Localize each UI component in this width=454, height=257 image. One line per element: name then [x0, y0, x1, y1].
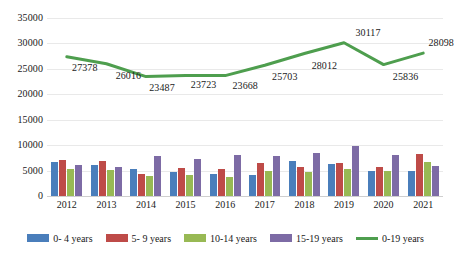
legend-item[interactable]: 15-19 years: [270, 233, 343, 244]
legend-item-label: 0-19 years: [382, 233, 424, 244]
legend-bar-swatch-icon: [270, 234, 292, 242]
legend-item-label: 5- 9 years: [132, 233, 171, 244]
x-axis-tick-label: 2018: [294, 199, 314, 211]
legend-line-swatch-icon: [356, 237, 378, 240]
legend-item[interactable]: 10-14 years: [184, 233, 257, 244]
x-axis-tick-label: 2013: [96, 199, 116, 211]
legend-item[interactable]: 5- 9 years: [106, 233, 171, 244]
y-axis-tick-label: 10000: [18, 140, 44, 150]
x-axis-tick-label: 2021: [413, 199, 433, 211]
legend-item-label: 15-19 years: [296, 233, 343, 244]
line-data-label: 30117: [355, 28, 380, 38]
y-axis-tick-label: 5000: [23, 166, 43, 176]
legend-item-label: 0- 4 years: [53, 233, 92, 244]
line-data-label: 25703: [272, 72, 298, 82]
y-axis-tick-label: 25000: [18, 64, 44, 74]
line-data-label: 28012: [312, 61, 338, 71]
x-axis: 2012201320142015201620172018201920202021: [47, 199, 443, 215]
x-axis-tick-label: 2016: [215, 199, 235, 211]
x-axis-tick-label: 2017: [255, 199, 275, 211]
x-axis-tick-label: 2020: [374, 199, 394, 211]
x-axis-tick-label: 2014: [136, 199, 156, 211]
x-axis-tick-label: 2015: [176, 199, 196, 211]
y-axis-tick-label: 35000: [18, 13, 44, 23]
line-data-label: 23723: [191, 80, 217, 90]
x-axis-tick-label: 2012: [57, 199, 77, 211]
legend-item[interactable]: 0- 4 years: [27, 233, 92, 244]
legend-bar-swatch-icon: [106, 234, 128, 242]
line-data-label: 23487: [149, 83, 175, 93]
axis-baseline: [47, 196, 443, 197]
line-data-label: 27378: [72, 63, 98, 73]
line-data-label: 23668: [232, 81, 258, 91]
y-axis-tick-label: 20000: [18, 89, 44, 99]
y-axis: 05000100001500020000250003000035000: [0, 18, 43, 196]
x-axis-tick-label: 2019: [334, 199, 354, 211]
y-axis-tick-label: 30000: [18, 38, 44, 48]
legend-item[interactable]: 0-19 years: [356, 233, 424, 244]
line-data-label: 28098: [428, 38, 454, 48]
y-axis-tick-label: 15000: [18, 115, 44, 125]
y-axis-tick-label: 0: [38, 191, 43, 201]
chart-legend: 0- 4 years5- 9 years10-14 years15-19 yea…: [0, 228, 451, 248]
legend-bar-swatch-icon: [27, 234, 49, 242]
plot-area: 2737826016234872372323668257032801230117…: [47, 18, 443, 196]
line-data-label: 26016: [116, 71, 142, 81]
line-data-label: 25836: [393, 72, 419, 82]
line-data-labels: 2737826016234872372323668257032801230117…: [47, 18, 443, 196]
legend-item-label: 10-14 years: [210, 233, 257, 244]
legend-bar-swatch-icon: [184, 234, 206, 242]
